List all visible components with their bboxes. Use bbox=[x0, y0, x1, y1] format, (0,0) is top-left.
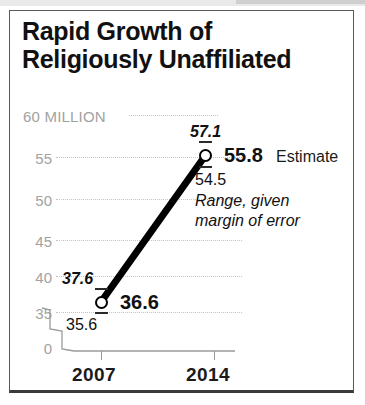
value-label-2007-lower: 35.6 bbox=[66, 316, 97, 334]
x-axis-label-2014: 2014 bbox=[186, 364, 230, 386]
x-tick-2007 bbox=[101, 351, 102, 360]
data-point-2014 bbox=[199, 149, 212, 162]
chart-screenshot: Rapid Growth of Religiously Unaffiliated… bbox=[0, 0, 365, 405]
y-axis-label-40: 40 bbox=[10, 269, 52, 286]
x-tick-2014 bbox=[214, 351, 215, 360]
value-label-2007-value: 36.6 bbox=[120, 291, 159, 314]
margin-note-line-2: margin of error bbox=[195, 212, 300, 230]
error-cap-lower-2007 bbox=[95, 312, 108, 314]
error-cap-lower-2014 bbox=[199, 166, 212, 168]
scan-edge-strip-dark bbox=[236, 0, 365, 4]
gridline-55 bbox=[56, 157, 242, 158]
data-point-2007 bbox=[95, 296, 108, 309]
value-label-2014-upper: 57.1 bbox=[190, 123, 221, 141]
estimate-caption: Estimate bbox=[276, 148, 338, 166]
error-cap-upper-2014 bbox=[199, 141, 212, 143]
margin-note-line-1: Range, given bbox=[195, 192, 289, 210]
value-label-2014-estimate: 55.8 bbox=[224, 144, 263, 167]
y-axis-label-50: 50 bbox=[10, 192, 52, 209]
chart-card: Rapid Growth of Religiously Unaffiliated… bbox=[9, 10, 354, 393]
gridline-60 bbox=[129, 115, 218, 116]
plot-area: 60 MILLION 55 50 45 40 35 0 2007 bbox=[10, 11, 355, 394]
x-axis-label-2007: 2007 bbox=[72, 364, 116, 386]
error-cap-upper-2007 bbox=[95, 288, 108, 290]
y-axis-label-45: 45 bbox=[10, 233, 52, 250]
y-axis-label-55: 55 bbox=[10, 150, 52, 167]
y-axis-label-60-million: 60 MILLION bbox=[23, 108, 106, 125]
value-label-2007-upper: 37.6 bbox=[62, 270, 93, 288]
gridline-45 bbox=[56, 240, 242, 241]
value-label-2014-lower: 54.5 bbox=[195, 171, 226, 189]
